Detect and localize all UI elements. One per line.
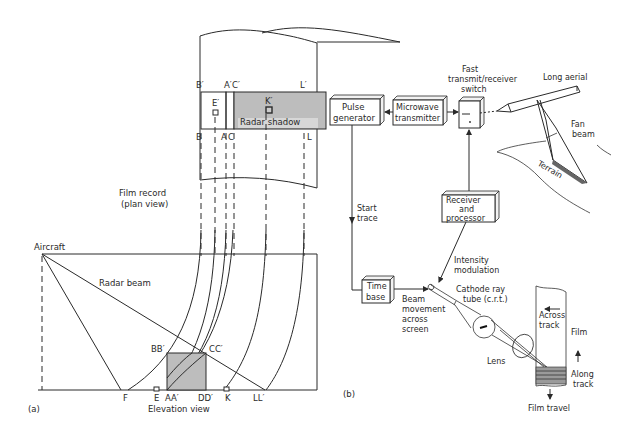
label-a-prime: A′ bbox=[224, 80, 232, 90]
film-label: Film bbox=[571, 328, 587, 337]
label-l-prime: L′ bbox=[300, 80, 307, 90]
lens-label: Lens bbox=[487, 357, 505, 366]
film-record-caption: Film record bbox=[119, 188, 166, 198]
label-cc-prime: CC′ bbox=[209, 344, 223, 354]
point-k-prime-marker bbox=[266, 107, 272, 113]
svg-text:Receiver: Receiver bbox=[446, 196, 481, 205]
point-e-marker bbox=[154, 387, 159, 391]
switch-caption-2: transmit/receiver bbox=[448, 75, 518, 84]
svg-text:generator: generator bbox=[333, 113, 375, 123]
label-e-prime: E′ bbox=[212, 98, 219, 108]
beam-movement-label-2: movement bbox=[402, 305, 445, 314]
microwave-transmitter-block: Microwave transmitter bbox=[393, 96, 447, 125]
film-travel-label: Film travel bbox=[528, 404, 570, 413]
radar-beam-label: Radar beam bbox=[99, 278, 151, 288]
long-aerial bbox=[497, 86, 580, 112]
along-track-label-1: Along bbox=[571, 370, 594, 379]
label-bb-prime: BB′ bbox=[151, 344, 165, 354]
point-e-prime-marker bbox=[213, 110, 218, 115]
svg-text:transmitter: transmitter bbox=[395, 114, 441, 123]
start-trace-label-1: Start bbox=[357, 204, 377, 213]
film-strip-ac bbox=[226, 92, 234, 129]
svg-text:base: base bbox=[366, 293, 385, 302]
beam-movement-label-1: Beam bbox=[402, 295, 425, 304]
start-trace-label-2: trace bbox=[357, 214, 378, 223]
fan-beam-leader bbox=[597, 145, 611, 155]
label-k: K bbox=[225, 393, 231, 403]
start-trace-arrow bbox=[349, 217, 355, 224]
label-e: E bbox=[154, 393, 159, 403]
beam-movement-label-4: screen bbox=[402, 325, 429, 334]
switch-caption-1: Fast bbox=[462, 65, 478, 74]
svg-text:Pulse: Pulse bbox=[342, 102, 364, 112]
beam-movement-label-3: across bbox=[402, 315, 428, 324]
time-base-block: Time base bbox=[362, 276, 394, 303]
elevation-view-caption: Elevation view bbox=[148, 404, 210, 414]
panel-b-label: (b) bbox=[343, 389, 355, 399]
fan-beam-label-2: beam bbox=[572, 130, 595, 139]
label-f: F bbox=[123, 393, 128, 403]
svg-text:and: and bbox=[459, 205, 474, 214]
label-k-prime: K′ bbox=[265, 96, 273, 106]
receiver-processor-block: Receiver and processor bbox=[442, 191, 499, 223]
intensity-label-2: modulation bbox=[454, 266, 499, 275]
label-c: C bbox=[228, 132, 234, 142]
film-strip bbox=[536, 286, 566, 386]
label-b-prime: B′ bbox=[196, 80, 204, 90]
svg-text:Time: Time bbox=[366, 282, 387, 291]
beam-near-edge bbox=[42, 254, 121, 390]
panel-a-label: (a) bbox=[28, 404, 40, 414]
crt-label-1: Cathode ray bbox=[456, 285, 505, 294]
intensity-label-1: Intensity bbox=[454, 256, 489, 265]
label-dd-prime: DD′ bbox=[198, 393, 213, 403]
pulse-generator-block: Pulse generator bbox=[330, 95, 384, 125]
label-aa-prime: AA′ bbox=[165, 393, 179, 403]
svg-text:Microwave: Microwave bbox=[396, 103, 439, 112]
switch-caption-3: switch bbox=[461, 85, 487, 94]
along-track-label-2: track bbox=[573, 380, 594, 389]
crt-label-2: tube (c.r.t.) bbox=[463, 295, 508, 304]
across-track-label-1: Across bbox=[539, 311, 565, 320]
fan-beam-label-1: Fan bbox=[571, 120, 585, 129]
radar-shadow-label: Radar shadow bbox=[240, 117, 300, 127]
point-k-marker bbox=[224, 387, 229, 391]
projection-lines bbox=[201, 114, 304, 256]
film-record-caption-sub: (plan view) bbox=[121, 199, 168, 209]
across-track-label-2: track bbox=[539, 321, 560, 330]
label-c-prime: C′ bbox=[232, 80, 240, 90]
aircraft-label: Aircraft bbox=[34, 242, 66, 252]
svg-text:processor: processor bbox=[446, 214, 486, 223]
label-ll-prime: LL′ bbox=[253, 393, 264, 403]
label-l: L bbox=[307, 132, 312, 142]
long-aerial-label: Long aerial bbox=[543, 73, 587, 82]
radar-diagram: B′ A′ C′ L′ B A C L E′ K′ Radar shadow F… bbox=[0, 0, 628, 434]
